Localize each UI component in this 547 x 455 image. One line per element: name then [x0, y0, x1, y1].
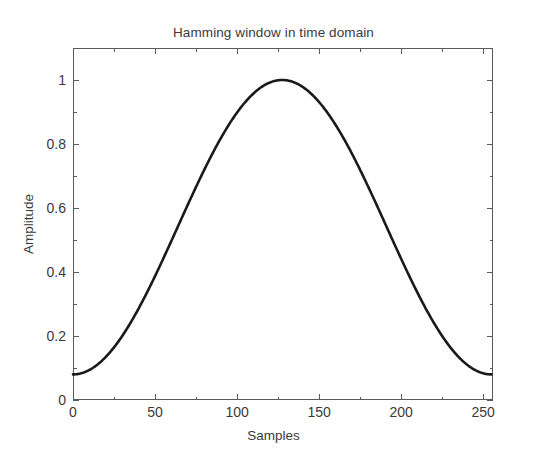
y-tick-minor-right: [490, 368, 494, 369]
y-tick-minor-right: [490, 176, 494, 177]
x-tick-minor: [360, 397, 361, 401]
y-tick-major-right: [487, 272, 493, 273]
x-tick-major-top: [237, 48, 238, 54]
y-tick-major-right: [487, 400, 493, 401]
x-tick-label: 0: [69, 404, 77, 420]
y-tick-major: [73, 144, 79, 145]
y-axis-label: Amplitude: [21, 194, 36, 254]
y-tick-minor-right: [490, 112, 494, 113]
x-tick-major-top: [483, 48, 484, 54]
y-tick-minor: [73, 48, 77, 49]
x-tick-minor: [442, 397, 443, 401]
x-tick-minor: [278, 397, 279, 401]
y-tick-label: 0.6: [47, 200, 66, 216]
y-tick-label: 1: [58, 72, 66, 88]
x-tick-major: [237, 394, 238, 400]
y-tick-major: [73, 272, 79, 273]
y-tick-major: [73, 80, 79, 81]
x-tick-major: [401, 394, 402, 400]
x-tick-minor-top: [114, 48, 115, 52]
y-tick-label: 0.8: [47, 136, 66, 152]
x-tick-major-top: [401, 48, 402, 54]
x-axis-label: Samples: [0, 428, 547, 443]
y-tick-minor-right: [490, 240, 494, 241]
x-tick-minor-top: [360, 48, 361, 52]
y-tick-minor-right: [490, 48, 494, 49]
y-tick-major-right: [487, 336, 493, 337]
x-tick-label: 100: [225, 404, 248, 420]
y-tick-minor: [73, 176, 77, 177]
chart-figure: Hamming window in time domain 0501001502…: [0, 0, 547, 455]
y-tick-minor: [73, 304, 77, 305]
y-tick-label: 0.4: [47, 264, 66, 280]
y-tick-major: [73, 400, 79, 401]
x-tick-major: [155, 394, 156, 400]
x-tick-label: 150: [307, 404, 330, 420]
y-tick-minor: [73, 240, 77, 241]
x-tick-minor-top: [196, 48, 197, 52]
x-tick-major: [319, 394, 320, 400]
y-tick-major: [73, 336, 79, 337]
x-tick-minor: [114, 397, 115, 401]
x-tick-label: 250: [471, 404, 494, 420]
y-tick-minor: [73, 112, 77, 113]
x-tick-major: [483, 394, 484, 400]
x-tick-major-top: [155, 48, 156, 54]
y-tick-minor: [73, 368, 77, 369]
x-tick-major-top: [319, 48, 320, 54]
x-tick-label: 50: [147, 404, 163, 420]
y-tick-major-right: [487, 80, 493, 81]
hamming-window-curve: [73, 48, 493, 400]
y-tick-major-right: [487, 144, 493, 145]
x-tick-minor: [196, 397, 197, 401]
y-tick-label: 0: [58, 392, 66, 408]
y-tick-minor-right: [490, 304, 494, 305]
y-tick-major-right: [487, 208, 493, 209]
y-tick-label: 0.2: [47, 328, 66, 344]
y-tick-major: [73, 208, 79, 209]
x-tick-label: 200: [389, 404, 412, 420]
plot-area: [73, 48, 493, 400]
x-tick-minor-top: [442, 48, 443, 52]
x-tick-minor-top: [278, 48, 279, 52]
chart-title: Hamming window in time domain: [0, 25, 547, 40]
